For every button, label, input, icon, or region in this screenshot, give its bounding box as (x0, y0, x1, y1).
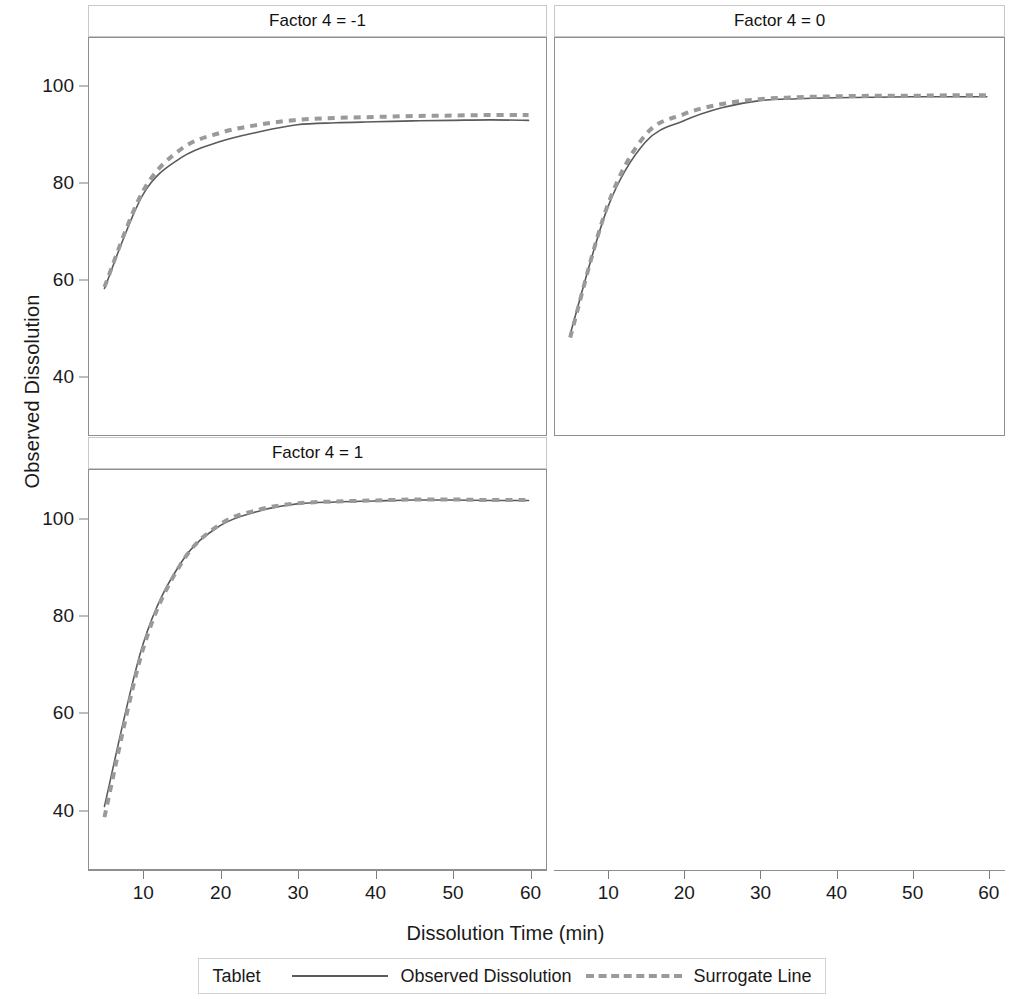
legend-label: Surrogate Line (694, 966, 812, 987)
y-tick-mark (79, 713, 88, 714)
y-tick-label: 40 (16, 366, 74, 388)
panel-factor4--1 (88, 37, 547, 436)
x-tick-mark (684, 870, 685, 879)
x-tick-label: 10 (583, 882, 633, 904)
x-tick-label: 40 (812, 882, 862, 904)
panel-factor4-0 (554, 37, 1005, 436)
panel-title-text: Factor 4 = 1 (272, 443, 363, 463)
y-tick-mark (79, 810, 88, 811)
series-line-observed-dissolution (104, 500, 528, 807)
panel-empty (554, 469, 1005, 870)
legend-title: Tablet (212, 966, 260, 987)
y-tick-label: 80 (16, 172, 74, 194)
x-tick-label: 20 (659, 882, 709, 904)
x-tick-mark (376, 870, 377, 879)
y-tick-label: 60 (16, 702, 74, 724)
y-tick-mark (79, 518, 88, 519)
y-tick-mark (79, 183, 88, 184)
panel-factor4-1 (88, 469, 547, 870)
series-line-observed-dissolution (570, 97, 987, 335)
x-tick-mark (143, 870, 144, 879)
y-tick-label: 100 (16, 75, 74, 97)
legend-item-observed-dissolution[interactable]: Observed Dissolution (292, 966, 571, 987)
x-tick-mark (837, 870, 838, 879)
x-tick-label: 50 (888, 882, 938, 904)
x-tick-mark (531, 870, 532, 879)
y-tick-mark (79, 280, 88, 281)
x-tick-label: 50 (428, 882, 478, 904)
legend-dashed-line-swatch (586, 974, 682, 978)
x-tick-mark (608, 870, 609, 879)
panel-plot-area-1 (555, 38, 1004, 435)
y-tick-label: 60 (16, 269, 74, 291)
x-axis-title: Dissolution Time (min) (0, 922, 1011, 945)
x-axis-baseline (554, 870, 1005, 871)
panel-strip-factor4-0: Factor 4 = 0 (554, 5, 1005, 37)
y-tick-mark (79, 86, 88, 87)
legend-item-surrogate-line[interactable]: Surrogate Line (586, 966, 812, 987)
panel-strip-factor4-1: Factor 4 = 1 (88, 437, 547, 469)
y-tick-label: 100 (16, 508, 74, 530)
legend-label: Observed Dissolution (400, 966, 571, 987)
x-tick-label: 30 (273, 882, 323, 904)
chart-legend: Tablet Observed Dissolution Surrogate Li… (198, 958, 826, 994)
panel-title-text: Factor 4 = -1 (269, 11, 366, 31)
series-line-surrogate-line (570, 95, 987, 337)
x-tick-label: 30 (735, 882, 785, 904)
x-tick-label: 10 (118, 882, 168, 904)
chart-figure: Observed Dissolution Dissolution Time (m… (0, 0, 1011, 999)
x-tick-label: 60 (964, 882, 1011, 904)
x-tick-mark (298, 870, 299, 879)
series-line-surrogate-line (104, 499, 528, 817)
panel-strip-factor4--1: Factor 4 = -1 (88, 5, 547, 37)
x-tick-mark (760, 870, 761, 879)
x-tick-label: 40 (351, 882, 401, 904)
y-tick-mark (79, 615, 88, 616)
y-tick-mark (79, 376, 88, 377)
legend-solid-line-swatch (292, 975, 388, 977)
x-tick-mark (221, 870, 222, 879)
x-tick-label: 20 (196, 882, 246, 904)
series-line-surrogate-line (104, 115, 528, 287)
panel-plot-area-0 (89, 38, 546, 435)
x-tick-mark (989, 870, 990, 879)
panel-title-text: Factor 4 = 0 (734, 11, 825, 31)
y-tick-label: 80 (16, 605, 74, 627)
x-tick-label: 60 (506, 882, 556, 904)
series-line-observed-dissolution (104, 120, 528, 289)
x-tick-mark (453, 870, 454, 879)
y-tick-label: 40 (16, 800, 74, 822)
panel-plot-area-2 (89, 470, 546, 869)
x-axis-baseline (88, 870, 547, 871)
x-tick-mark (913, 870, 914, 879)
